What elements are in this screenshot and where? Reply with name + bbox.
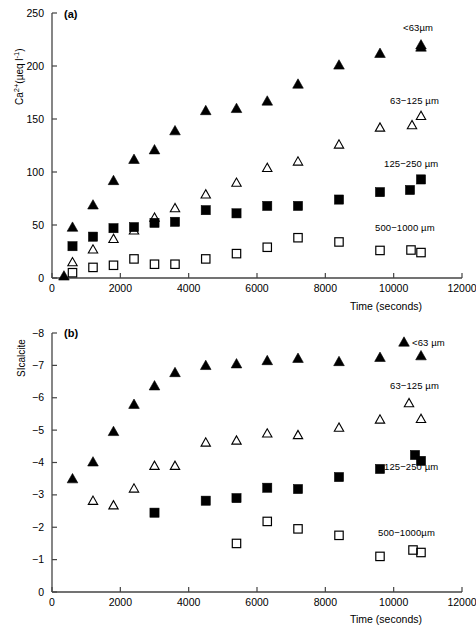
x-tick-label: 4000	[177, 596, 201, 608]
data-point-open-square	[417, 248, 425, 256]
data-point-filled-triangle	[108, 426, 119, 435]
x-tick-label: 0	[49, 596, 55, 608]
y-tick-label: 100	[26, 166, 44, 178]
axes-group: 0200040006000800010000120000501001502002…	[26, 7, 476, 294]
data-point-open-square	[294, 525, 302, 533]
series-4	[232, 517, 425, 560]
data-point-open-triangle	[232, 436, 241, 444]
data-point-open-triangle	[170, 203, 179, 211]
data-point-open-square	[417, 548, 425, 556]
data-point-filled-triangle	[88, 200, 99, 209]
data-point-open-triangle	[170, 461, 179, 469]
data-point-filled-triangle	[200, 105, 211, 114]
panel-a-legend-label-125-250: 125−250 µm	[384, 158, 438, 169]
data-point-filled-triangle	[149, 381, 160, 390]
data-point-open-triangle	[404, 398, 413, 406]
data-point-filled-square	[170, 217, 179, 226]
legend-key-a-63-125	[407, 120, 416, 128]
y-tick-label: 150	[26, 113, 44, 125]
data-point-open-square	[202, 255, 210, 263]
data-point-open-square	[232, 539, 240, 547]
series-2	[68, 111, 426, 266]
data-point-open-triangle	[88, 245, 97, 253]
data-point-filled-triangle	[375, 352, 386, 361]
data-point-open-triangle	[416, 414, 425, 422]
panel-a-legend-label-lt63: <63µm	[403, 22, 433, 33]
data-point-filled-square	[109, 224, 118, 233]
series-2	[88, 414, 425, 509]
data-point-open-triangle	[263, 163, 272, 171]
y-tick-label: −4	[32, 456, 44, 468]
series-4	[68, 234, 425, 277]
data-point-filled-square	[232, 209, 241, 218]
data-point-filled-triangle	[375, 48, 386, 57]
series-1	[59, 40, 427, 280]
panel-b-legend-label-125-250: 125−250 µm	[384, 461, 438, 472]
series-3	[68, 175, 426, 251]
data-point-filled-square	[201, 206, 210, 215]
data-point-filled-square	[150, 508, 159, 517]
x-tick-label: 8000	[314, 282, 338, 294]
y-tick-label: −5	[32, 424, 44, 436]
panel-b-legend-label-lt63: <63 µm	[412, 337, 445, 348]
data-point-filled-triangle	[231, 103, 242, 112]
data-point-filled-triangle	[170, 367, 181, 376]
data-point-filled-triangle	[262, 96, 273, 105]
data-point-filled-triangle	[416, 350, 427, 359]
data-point-open-triangle	[88, 496, 97, 504]
data-point-open-square	[335, 238, 343, 246]
data-point-open-square	[376, 246, 384, 254]
x-tick-label: 2000	[109, 596, 133, 608]
legend-key-b-500-1000	[409, 546, 417, 554]
data-point-open-square	[89, 263, 97, 271]
x-tick-label: 10000	[379, 596, 408, 608]
panel-b-y-axis-label: SIcalcite	[16, 339, 27, 377]
data-point-open-triangle	[293, 430, 302, 438]
data-point-filled-square	[232, 494, 241, 503]
data-point-filled-square	[416, 175, 425, 184]
data-point-open-square	[263, 243, 271, 251]
data-point-open-triangle	[375, 123, 384, 131]
y-tick-label: 0	[38, 272, 44, 284]
data-point-open-square	[376, 552, 384, 560]
x-tick-label: 6000	[245, 596, 269, 608]
data-point-filled-square	[293, 484, 302, 493]
data-point-filled-triangle	[399, 337, 410, 346]
data-point-filled-triangle	[129, 399, 140, 408]
data-point-filled-triangle	[231, 359, 242, 368]
panel-b-x-axis-label: Time (seconds)	[350, 613, 422, 625]
data-point-filled-triangle	[129, 154, 140, 163]
data-point-filled-triangle	[59, 271, 70, 280]
y-tick-label: −3	[32, 488, 44, 500]
data-point-filled-square	[410, 450, 419, 459]
data-point-open-square	[232, 249, 240, 257]
panel-a-legend-label-500-1000: 500−1000 µm	[375, 222, 435, 233]
data-point-filled-square	[150, 218, 159, 227]
data-point-filled-square	[263, 483, 272, 492]
x-tick-label: 6000	[245, 282, 269, 294]
data-point-open-square	[407, 246, 415, 254]
data-point-filled-square	[88, 232, 97, 241]
y-tick-label: 0	[38, 586, 44, 598]
data-point-filled-square	[405, 185, 414, 194]
y-tick-label: −2	[32, 521, 44, 533]
data-point-filled-triangle	[108, 175, 119, 184]
data-point-filled-triangle	[293, 353, 304, 362]
data-point-open-triangle	[68, 258, 77, 266]
y-tick-label: −6	[32, 391, 44, 403]
data-point-open-triangle	[293, 157, 302, 165]
figure-root: 0200040006000800010000120000501001502002…	[0, 0, 476, 633]
x-tick-label: 8000	[314, 596, 338, 608]
panel-b-legend-label-500-1000: 500−1000µm	[378, 527, 435, 538]
data-point-open-triangle	[375, 415, 384, 423]
legend-key-b-125-250	[410, 450, 419, 459]
data-point-open-triangle	[150, 461, 159, 469]
y-tick-label: −8	[32, 327, 44, 339]
panel-a-legend-label-63-125: 63−125 µm	[390, 95, 439, 106]
x-tick-label: 12000	[447, 596, 476, 608]
series-1	[67, 350, 426, 482]
data-point-filled-triangle	[262, 355, 273, 364]
legend-key-a-125-250	[405, 185, 414, 194]
data-point-filled-triangle	[67, 222, 78, 231]
data-point-open-square	[409, 546, 417, 554]
